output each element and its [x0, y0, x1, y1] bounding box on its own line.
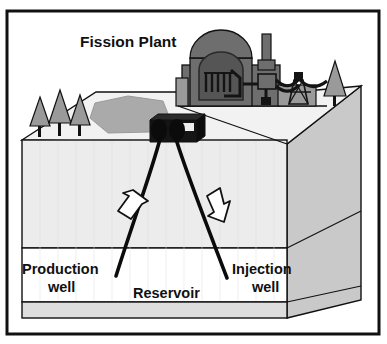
plant-annexe-left	[176, 78, 188, 106]
transformer-block	[258, 74, 276, 89]
diagram-canvas: Fission Plant Production well Injection …	[0, 0, 387, 344]
transformer-foot	[261, 97, 271, 105]
production-well-label-line1: Production	[22, 261, 99, 277]
figure-root: Fission Plant Production well Injection …	[0, 0, 387, 344]
stack-base	[258, 60, 275, 70]
injection-well-label-line2: well	[251, 279, 279, 295]
page-title: Fission Plant	[80, 33, 176, 50]
basement-layer	[22, 302, 287, 318]
wellhead-equipment	[150, 114, 205, 142]
injection-well-label-line1: Injection	[232, 261, 292, 277]
reservoir-label: Reservoir	[133, 285, 200, 301]
production-well-label-line2: well	[47, 279, 75, 295]
